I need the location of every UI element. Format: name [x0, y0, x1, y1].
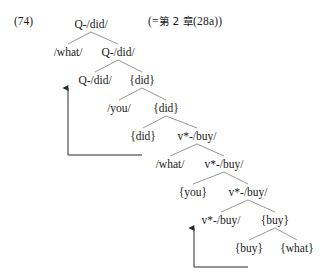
tree-branch: [248, 200, 275, 212]
cross-reference: (=第 2 章(28a)): [148, 15, 222, 28]
cross-reference-tail: (28a)): [193, 15, 222, 27]
tree-branch: [193, 172, 224, 184]
tree-node: v*-/buy/: [178, 130, 217, 143]
movement-arrow-did-movement: [68, 88, 142, 155]
tree-node: {what}: [280, 242, 313, 255]
tree-branch: [91, 32, 118, 44]
tree-branch: [95, 60, 118, 72]
cross-reference-chapter: 第 2 章: [159, 15, 193, 27]
tree-branch: [170, 144, 197, 156]
tree-node: {did}: [130, 130, 156, 143]
tree-line-layer: [0, 0, 333, 278]
tree-node: {did}: [153, 102, 179, 115]
tree-branch: [275, 228, 297, 240]
example-number: (74): [14, 15, 33, 28]
tree-branch: [142, 88, 166, 100]
tree-node: /you/: [107, 102, 131, 115]
tree-node: {buy}: [261, 214, 289, 227]
tree-branch: [221, 200, 248, 212]
tree-node: v*-/buy/: [205, 158, 244, 171]
tree-branch: [224, 172, 248, 184]
tree-branch: [118, 60, 142, 72]
tree-node: {you}: [179, 186, 207, 199]
tree-node: {did}: [129, 74, 155, 87]
tree-branch: [143, 116, 166, 128]
tree-branch: [119, 88, 142, 100]
tree-node: Q-/did/: [78, 74, 111, 87]
diagram-page: (74) (=第 2 章(28a)) Q-/did//what/Q-/did/Q…: [0, 0, 333, 278]
tree-branch: [68, 32, 91, 44]
cross-reference-open: (=: [148, 15, 159, 27]
tree-node: Q-/did/: [74, 18, 107, 31]
tree-node: /what/: [156, 158, 185, 171]
tree-node: {buy}: [235, 242, 263, 255]
tree-branch: [166, 116, 197, 128]
tree-node: Q-/did/: [101, 46, 134, 59]
tree-node: v*-/buy/: [202, 214, 241, 227]
tree-branch: [197, 144, 224, 156]
tree-node: /what/: [54, 46, 83, 59]
tree-node: v*-/buy/: [229, 186, 268, 199]
tree-branch: [249, 228, 275, 240]
